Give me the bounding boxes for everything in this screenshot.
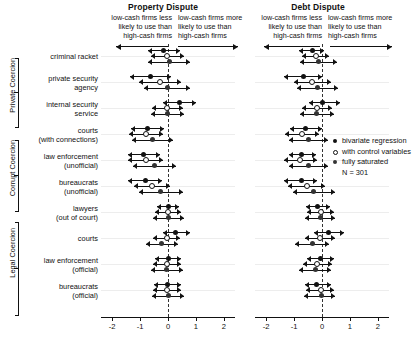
- estimate-sat: [101, 163, 235, 170]
- ci-right-cap-icon: [331, 293, 335, 299]
- y-axis-label-4: law enforcement(unofficial): [22, 152, 98, 170]
- x-axis-tick-label: -2: [103, 322, 121, 331]
- estimate-sat: [255, 189, 389, 196]
- estimate-sat: [101, 189, 235, 196]
- ci-right-cap-icon: [169, 137, 173, 143]
- ci-left-cap-icon: [297, 85, 301, 91]
- legend-item-bivariate: bivariate regression: [332, 136, 418, 147]
- x-axis-tick-label: 0: [159, 322, 177, 331]
- point-estimate-marker: [315, 85, 320, 90]
- legend-label-bivariate: bivariate regression: [342, 136, 407, 145]
- x-axis-tick: [266, 318, 267, 321]
- legend: bivariate regression with control variab…: [332, 136, 418, 178]
- caption-debt-less: low-cash firms lesslikely to use thanhig…: [252, 13, 322, 41]
- point-estimate-marker: [316, 59, 321, 64]
- y-axis-label-2: internal securityservice: [22, 100, 98, 118]
- estimate-sat: [101, 111, 235, 118]
- point-estimate-marker: [159, 241, 164, 246]
- y-axis-label-8: law enforcement(official): [22, 256, 98, 274]
- x-axis-tick: [112, 318, 113, 321]
- estimate-sat: [101, 215, 235, 222]
- x-axis-tick-label: 1: [187, 322, 205, 331]
- caption-property-more: low-cash firms morelikely to use thanhig…: [178, 13, 250, 41]
- ci-left-cap-icon: [151, 111, 155, 117]
- ci-left-cap-icon: [300, 59, 304, 65]
- point-estimate-marker: [318, 215, 323, 220]
- x-axis-tick: [224, 318, 225, 321]
- x-axis-tick: [294, 318, 295, 321]
- ci-left-cap-icon: [304, 293, 308, 299]
- ci-left-cap-icon: [289, 137, 293, 143]
- x-axis-tick-label: 2: [369, 322, 387, 331]
- caption-debt-more: low-cash firms morelikely to use thanhig…: [328, 13, 404, 41]
- legend-item-controls: with control variables: [332, 147, 418, 158]
- x-axis-tick-label: -1: [131, 322, 149, 331]
- ci-left-cap-icon: [152, 293, 156, 299]
- ci-left-cap-icon: [146, 241, 150, 247]
- ci-right-cap-icon: [179, 189, 183, 195]
- x-axis-tick: [378, 318, 379, 321]
- x-axis-tick-label: -2: [257, 322, 275, 331]
- y-axis-label-9: bureaucrats(official): [22, 282, 98, 300]
- ci-right-cap-icon: [180, 111, 184, 117]
- x-axis-tick-label: 1: [341, 322, 359, 331]
- ci-left-cap-icon: [153, 215, 157, 221]
- ci-right-cap-icon: [179, 267, 183, 273]
- point-estimate-marker: [319, 293, 324, 298]
- point-estimate-marker: [306, 137, 311, 142]
- legend-label-saturated: fully saturated: [342, 157, 388, 166]
- ci-right-cap-icon: [330, 111, 334, 117]
- x-axis-tick: [140, 318, 141, 321]
- ci-left-cap-icon: [133, 163, 137, 169]
- point-estimate-marker: [167, 59, 172, 64]
- estimate-sat: [255, 111, 389, 118]
- point-estimate-marker: [306, 163, 311, 168]
- point-estimate-marker: [164, 267, 169, 272]
- legend-marker-filled-icon: [333, 139, 337, 143]
- estimate-sat: [255, 59, 389, 66]
- legend-item-saturated: fully saturated: [332, 157, 418, 168]
- point-estimate-marker: [166, 293, 171, 298]
- point-estimate-marker: [313, 267, 318, 272]
- ci-right-cap-icon: [180, 293, 184, 299]
- estimate-sat: [255, 85, 389, 92]
- legend-marker-open-icon: [333, 150, 338, 155]
- ci-left-cap-icon: [289, 163, 293, 169]
- ci-right-cap-icon: [327, 267, 331, 273]
- estimate-sat: [101, 137, 235, 144]
- point-estimate-marker: [165, 85, 170, 90]
- point-estimate-marker: [314, 111, 319, 116]
- panel-title-debt-dispute: Debt Dispute: [270, 2, 366, 12]
- ci-left-cap-icon: [305, 215, 309, 221]
- legend-marker-saturated-icon: [333, 160, 337, 164]
- ci-right-cap-icon: [324, 137, 328, 143]
- y-axis-label-3: courts(with connections): [22, 126, 98, 144]
- brace-legal-coercion: [14, 222, 21, 316]
- y-axis-label-1: private securityagency: [22, 74, 98, 92]
- brace-corrupt-coercion: [14, 140, 21, 212]
- y-axis-label-6: lawyers(out of court): [22, 204, 98, 222]
- ci-right-cap-icon: [333, 59, 337, 65]
- ci-right-cap-icon: [334, 85, 338, 91]
- ci-right-cap-icon: [186, 85, 190, 91]
- estimate-sat: [255, 241, 389, 248]
- estimate-sat: [101, 267, 235, 274]
- ci-left-cap-icon: [295, 241, 299, 247]
- point-estimate-marker: [311, 189, 316, 194]
- ci-right-cap-icon: [324, 163, 328, 169]
- ci-right-cap-icon: [331, 189, 335, 195]
- ci-right-cap-icon: [186, 59, 190, 65]
- x-axis-tick: [322, 318, 323, 321]
- ci-left-cap-icon: [139, 189, 143, 195]
- estimate-sat: [101, 59, 235, 66]
- point-estimate-marker: [152, 163, 157, 168]
- estimate-sat: [101, 241, 235, 248]
- point-estimate-marker: [166, 215, 171, 220]
- estimate-sat: [101, 85, 235, 92]
- point-estimate-marker: [165, 111, 170, 116]
- ci-left-cap-icon: [144, 85, 148, 91]
- x-axis-tick-label: 0: [313, 322, 331, 331]
- brace-private-coercion: [14, 58, 21, 128]
- plot-panel-property-dispute: -2-1012: [101, 52, 235, 317]
- estimate-sat: [255, 293, 389, 300]
